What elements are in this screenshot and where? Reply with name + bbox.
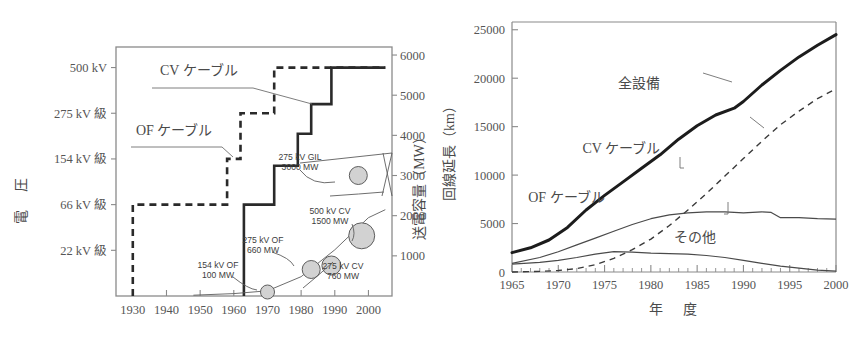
right-y-ticklabel: 20000 <box>474 72 505 86</box>
left-x-ticklabel: 1980 <box>289 303 314 317</box>
right-y-ticklabel: 25000 <box>474 23 505 37</box>
right-y-ticklabel: 10000 <box>474 169 505 183</box>
right-x-ticklabel: 1985 <box>685 278 710 292</box>
left-bubble-annotation-line: 100 MW <box>202 270 235 280</box>
left-bubble <box>261 285 275 299</box>
left-x-ticklabel: 1950 <box>188 303 213 317</box>
left-leader-cv-cable <box>152 88 312 104</box>
right-x-ticklabel: 1990 <box>731 278 756 292</box>
right-annotation-leader <box>703 73 732 82</box>
right-annotation-2: OF ケーブル <box>528 189 604 205</box>
left-label-cv-cable: CV ケーブル <box>160 62 238 78</box>
left-bubble-annotation: 500 kV CV1500 MW <box>309 206 350 226</box>
left-axis-leader-d <box>330 192 384 196</box>
left-x-ticklabel: 2000 <box>356 303 381 317</box>
left-bubble-annotation-line: 1500 MW <box>312 216 350 226</box>
left-bubble-annotation-line: 275 kV GIL <box>279 152 322 162</box>
left-leader-of-cable <box>131 147 233 157</box>
left-bubble-annotation: 275 kV OF660 MW <box>242 235 283 255</box>
left-x-ticklabel: 1940 <box>154 303 179 317</box>
right-x-ticklabel: 1970 <box>546 278 571 292</box>
right-chart: 0500010000150002000025000196519701975198… <box>432 0 862 341</box>
right-y-ticklabel: 5000 <box>480 217 505 231</box>
figure-caption <box>0 327 862 341</box>
left-y2-ticklabel: 1000 <box>400 249 425 263</box>
right-x-ticklabel: 1980 <box>638 278 663 292</box>
right-x-ticklabel: 1965 <box>500 278 525 292</box>
right-annotation-leader <box>750 117 764 128</box>
left-x-ticklabel: 1970 <box>255 303 280 317</box>
left-bubble-annotation-line: 154 kV OF <box>197 260 238 270</box>
left-x-ticklabel: 1960 <box>221 303 246 317</box>
left-y2-axis-title: 送電容量（MW） <box>411 130 427 240</box>
left-label-of-cable: OF ケーブル <box>136 122 212 138</box>
right-annotation-3: その他 <box>674 230 716 245</box>
left-x-ticklabel: 1930 <box>120 303 145 317</box>
left-capacity-curve <box>193 210 385 296</box>
left-bubble-annotation: 275 kV GIL3000 MW <box>279 152 322 172</box>
left-y2-ticklabel: 6000 <box>400 49 425 63</box>
left-chart: 22 kV 級66 kV 級154 kV 級275 kV 級500 kV1000… <box>0 0 440 341</box>
left-bubble-annotation-line: 275 kV OF <box>242 235 283 245</box>
left-y-ticklabel: 154 kV 級 <box>54 152 107 166</box>
right-x-ticklabel: 2000 <box>824 278 849 292</box>
left-bubble-annotation-line: 500 kV CV <box>309 206 350 216</box>
right-y-axis-title: 回線延長（km） <box>442 99 457 201</box>
right-annotation-leader <box>680 157 684 168</box>
left-bubble-annotation: 154 kV OF100 MW <box>197 260 238 280</box>
right-x-ticklabel: 1995 <box>777 278 802 292</box>
left-bubble <box>349 167 367 185</box>
right-annotation-1: CV ケーブル <box>582 140 660 156</box>
left-y-ticklabel: 275 kV 級 <box>54 107 107 121</box>
left-x-ticklabel: 1990 <box>322 303 347 317</box>
left-bubble-annotation-line: 760 MW <box>327 271 360 281</box>
right-x-ticklabel: 1975 <box>592 278 617 292</box>
left-y-ticklabel: 66 kV 級 <box>60 198 107 212</box>
left-y-axis-title: 電 圧 <box>14 176 29 224</box>
right-series-others <box>512 252 836 272</box>
right-y-ticklabel: 15000 <box>474 120 505 134</box>
left-y-ticklabel: 500 kV <box>70 61 107 75</box>
left-y-ticklabel: 22 kV 級 <box>60 244 107 258</box>
right-annotation-0: 全設備 <box>618 75 660 91</box>
figure-root: 22 kV 級66 kV 級154 kV 級275 kV 級500 kV1000… <box>0 0 862 341</box>
right-series-total <box>512 35 836 253</box>
left-y2-ticklabel: 5000 <box>400 89 425 103</box>
right-x-axis-title: 年 度 <box>649 302 700 317</box>
left-bubble-annotation: 275 kV CV760 MW <box>322 261 363 281</box>
